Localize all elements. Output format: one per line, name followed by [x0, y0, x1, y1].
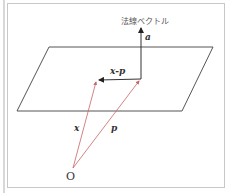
- x-label: x: [74, 124, 79, 133]
- normal-vector-label: 法線ベクトル: [121, 18, 169, 26]
- plane-vector-diagram: [0, 0, 228, 193]
- plane-parallelogram: [17, 47, 213, 111]
- a-label: a: [145, 33, 151, 42]
- origin-label: O: [66, 171, 75, 182]
- p-vector: [73, 81, 139, 168]
- p-label: p: [111, 124, 117, 133]
- x-minus-p-label: x-p: [110, 67, 125, 76]
- x-minus-p-arrow: [99, 79, 141, 80]
